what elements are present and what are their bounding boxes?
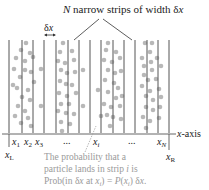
particle-dot bbox=[110, 60, 115, 65]
particle-dot bbox=[26, 116, 31, 121]
tick-sub: 2 bbox=[28, 141, 32, 149]
particle-dot bbox=[74, 91, 79, 96]
particle-dot bbox=[140, 56, 145, 61]
tick-x3: x3 bbox=[35, 137, 43, 149]
annotation-line-2: particle lands in strip i is bbox=[44, 165, 138, 175]
particle-dot bbox=[141, 115, 146, 120]
tick-sub: i bbox=[97, 141, 99, 149]
particle-dot bbox=[149, 60, 154, 65]
particle-dot bbox=[106, 68, 111, 73]
anno-text: Prob(in δ bbox=[44, 176, 79, 186]
particle-dot bbox=[102, 58, 107, 63]
particle-dot bbox=[159, 64, 164, 69]
particle-dot bbox=[65, 71, 70, 76]
tick-x1: x1 bbox=[12, 137, 20, 149]
particle-dot bbox=[105, 113, 110, 118]
particle-dot bbox=[58, 50, 63, 55]
probability-strips-diagram: N narrow strips of width δx δx x-axis x1… bbox=[0, 0, 209, 190]
particle-dot bbox=[63, 61, 68, 66]
particle-dot bbox=[96, 88, 101, 93]
tick-sub: N bbox=[161, 141, 166, 149]
particle-dot bbox=[140, 84, 145, 89]
particle-dot bbox=[32, 80, 37, 85]
particle-dot bbox=[114, 96, 119, 101]
particle-dot bbox=[118, 56, 123, 61]
width-label: δx bbox=[44, 23, 53, 33]
tick-sub: R bbox=[170, 156, 175, 164]
particle-dot bbox=[159, 95, 164, 100]
tick-ellipsis-left: ... bbox=[63, 136, 71, 146]
anno-text: ) = bbox=[101, 176, 114, 186]
particle-dot bbox=[144, 94, 149, 99]
particle-dot bbox=[70, 49, 75, 54]
particle-dot bbox=[104, 48, 109, 53]
x-axis-label: x-axis bbox=[177, 129, 201, 139]
particle-dot bbox=[61, 41, 66, 46]
particle-dot bbox=[58, 79, 63, 84]
particle-dot bbox=[142, 64, 147, 69]
anno-text: . bbox=[144, 176, 146, 186]
particle-dot bbox=[108, 124, 113, 129]
particle-dot bbox=[81, 104, 86, 109]
particle-dot bbox=[148, 119, 153, 124]
particle-dot bbox=[150, 68, 155, 73]
particle-dot bbox=[26, 88, 31, 93]
particle-dot bbox=[23, 59, 28, 64]
particle-dot bbox=[70, 83, 75, 88]
tick-sub: L bbox=[9, 154, 13, 162]
particle-dot bbox=[114, 50, 119, 55]
tick-xN: xN bbox=[157, 137, 166, 149]
particle-dot bbox=[16, 104, 21, 109]
particle-dot bbox=[148, 89, 153, 94]
anno-text: at bbox=[84, 176, 96, 186]
particle-dot bbox=[24, 41, 29, 46]
axis-label-rest: -axis bbox=[181, 128, 200, 139]
particle-dot bbox=[150, 41, 155, 46]
particle-dot bbox=[12, 67, 17, 72]
particle-dot bbox=[23, 109, 28, 114]
particle-dot bbox=[23, 68, 28, 73]
particle-dot bbox=[151, 108, 156, 113]
particle-dot bbox=[72, 58, 77, 63]
anno-text: particle lands in strip bbox=[44, 164, 126, 174]
particle-dot bbox=[155, 56, 160, 61]
particle-dot bbox=[102, 102, 107, 107]
tick-xR: xR bbox=[166, 152, 175, 164]
particle-dot bbox=[103, 78, 108, 83]
annotation-line-3: Prob(in δx at xi) = P(xi) δx. bbox=[44, 177, 146, 188]
annotation-line-1: The probability that a bbox=[44, 153, 126, 163]
tick-ellipsis-right: ... bbox=[128, 136, 136, 146]
particle-dot bbox=[15, 86, 20, 91]
particle-dot bbox=[60, 129, 65, 134]
particle-dot bbox=[73, 70, 78, 75]
particle-dot bbox=[112, 81, 117, 86]
title-text: narrow strips of width bbox=[70, 3, 173, 15]
particle-dot bbox=[116, 86, 121, 91]
particle-dot bbox=[11, 83, 16, 88]
particle-dot bbox=[144, 126, 149, 131]
tick-xi: xi bbox=[93, 137, 99, 149]
particle-dot bbox=[81, 68, 86, 73]
particle-dot bbox=[67, 102, 72, 107]
particles bbox=[11, 41, 164, 134]
particle-dot bbox=[146, 78, 151, 83]
title-x: x bbox=[179, 3, 184, 15]
particle-dot bbox=[59, 120, 64, 125]
strip-boundaries bbox=[9, 40, 169, 133]
particle-dot bbox=[118, 104, 123, 109]
tick-sub: 3 bbox=[39, 141, 43, 149]
particle-dot bbox=[157, 116, 162, 121]
particle-dot bbox=[144, 105, 149, 110]
particle-dot bbox=[151, 98, 156, 103]
particle-dot bbox=[106, 41, 111, 46]
tick-xL: xL bbox=[5, 150, 14, 162]
width-arrow-icon bbox=[44, 34, 56, 37]
diagram-title: N narrow strips of width δx bbox=[63, 4, 183, 15]
particle-dot bbox=[13, 114, 18, 119]
particle-dot bbox=[57, 91, 62, 96]
particle-dot bbox=[157, 87, 162, 92]
particle-dot bbox=[59, 68, 64, 73]
particle-dot bbox=[39, 104, 44, 109]
anno-text: is bbox=[129, 164, 138, 174]
particle-dot bbox=[39, 67, 44, 72]
